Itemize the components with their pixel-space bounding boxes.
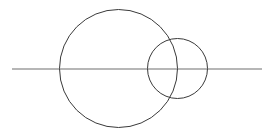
diagram-canvas — [0, 0, 272, 139]
